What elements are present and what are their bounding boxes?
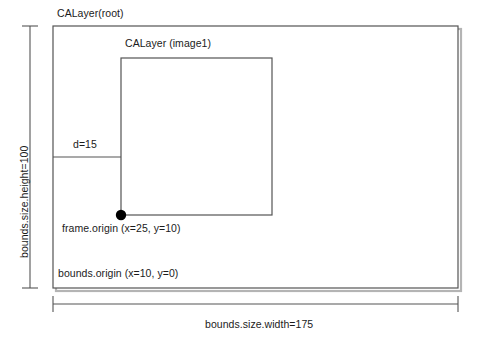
calayer-geometry-diagram: CALayer(root) CALayer (image1) d=15 fram…	[0, 0, 479, 341]
frame-origin-label: frame.origin (x=25, y=10)	[62, 222, 181, 234]
image-layer-title: CALayer (image1)	[125, 37, 211, 49]
distance-label: d=15	[73, 138, 97, 150]
image-layer-rect	[121, 58, 272, 215]
diagram-canvas	[0, 0, 479, 341]
width-dimension-label: bounds.size.width=175	[205, 318, 313, 330]
frame-origin-dot-icon	[116, 210, 126, 220]
bounds-origin-label: bounds.origin (x=10, y=0)	[58, 267, 178, 279]
height-dimension-label: bounds.size.height=100	[18, 28, 30, 258]
root-layer-title: CALayer(root)	[57, 7, 124, 19]
